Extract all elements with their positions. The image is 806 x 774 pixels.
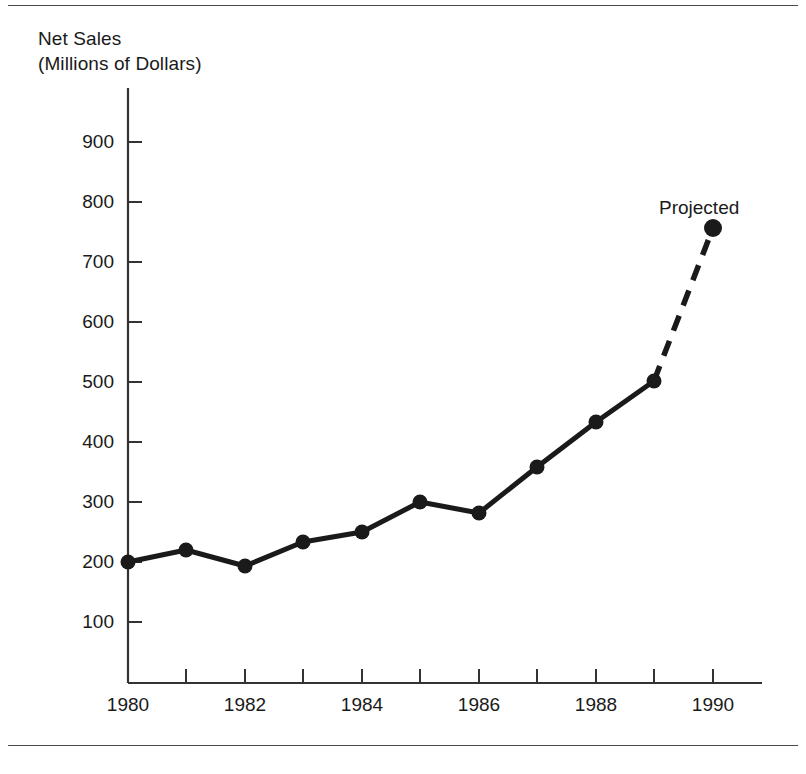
y-tick-label-300: 300	[56, 491, 114, 513]
x-tick-label-1990: 1990	[673, 694, 753, 716]
series-projected-line	[654, 228, 713, 381]
y-tick-label-100: 100	[56, 611, 114, 633]
x-tick-label-1982: 1982	[205, 694, 285, 716]
y-tick-label-800: 800	[56, 191, 114, 213]
y-tick-label-200: 200	[56, 551, 114, 573]
line-chart-svg	[0, 0, 806, 774]
data-point-1987	[530, 460, 545, 475]
y-tick-label-900: 900	[56, 131, 114, 153]
y-tick-label-400: 400	[56, 431, 114, 453]
chart-plot-area: 900 800 700 600 500 400 300 200 100 1980…	[0, 0, 806, 774]
data-point-1986	[472, 506, 487, 521]
figure-container: Net Sales (Millions of Dollars)	[0, 0, 806, 774]
y-tick-label-600: 600	[56, 311, 114, 333]
data-point-1988	[589, 415, 604, 430]
data-point-1983	[296, 535, 311, 550]
data-point-1985	[413, 495, 428, 510]
x-axis-ticks	[128, 669, 713, 683]
x-tick-label-1980: 1980	[88, 694, 168, 716]
series-actual-line	[128, 381, 654, 566]
data-point-1990	[704, 219, 722, 237]
x-tick-label-1984: 1984	[322, 694, 402, 716]
data-point-1989	[647, 374, 662, 389]
data-point-1982	[238, 559, 253, 574]
data-point-1981	[179, 543, 194, 558]
y-axis-ticks	[128, 142, 142, 622]
y-tick-label-500: 500	[56, 371, 114, 393]
x-tick-label-1988: 1988	[556, 694, 636, 716]
projected-annotation-label: Projected	[659, 197, 739, 219]
data-point-1984	[355, 525, 370, 540]
y-tick-label-700: 700	[56, 251, 114, 273]
data-point-1980	[121, 555, 136, 570]
x-tick-label-1986: 1986	[439, 694, 519, 716]
